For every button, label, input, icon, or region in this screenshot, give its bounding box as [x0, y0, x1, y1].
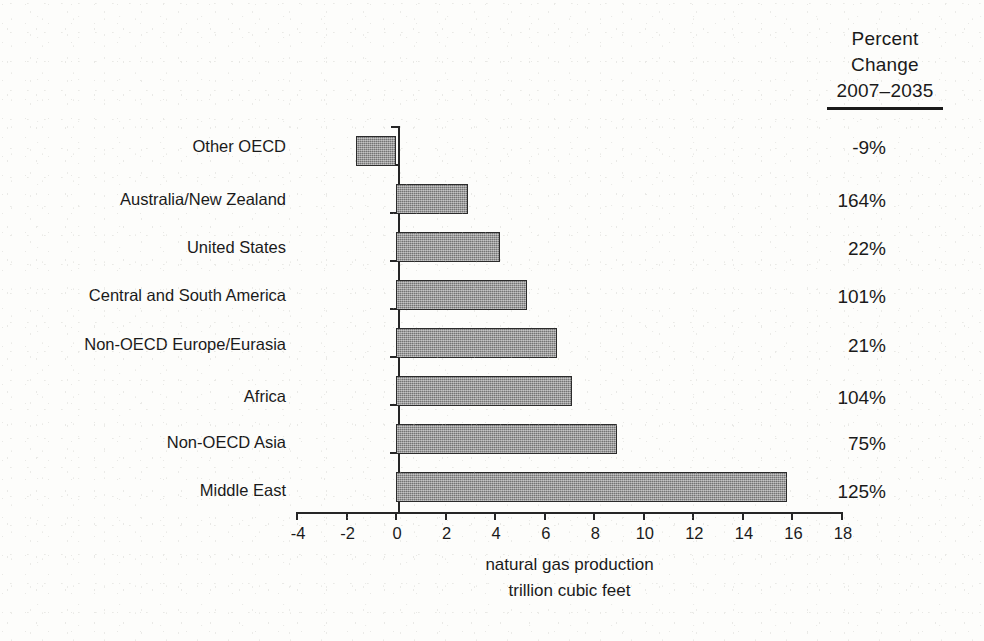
x-axis-caption: natural gas production trillion cubic fe…: [297, 552, 842, 604]
x-axis-tick-label: -2: [328, 524, 368, 542]
x-axis-tick-label: 2: [427, 524, 467, 542]
category-label-non-oecd-asia: Non-OECD Asia: [20, 434, 286, 451]
category-label-africa: Africa: [20, 388, 286, 405]
bar-central-and-south-america: [396, 280, 527, 310]
bar-non-oecd-asia: [396, 424, 616, 454]
category-label-australia-new-zealand: Australia/New Zealand: [20, 191, 286, 208]
bar-other-oecd: [356, 136, 396, 166]
x-axis-tick-label: -4: [278, 524, 318, 542]
category-label-other-oecd: Other OECD: [20, 138, 286, 155]
percent-change-header-line-3: 2007–2035: [820, 78, 950, 104]
x-axis-tick-label: 8: [575, 524, 615, 542]
bar-australia-new-zealand: [396, 184, 468, 214]
x-axis-tick: [841, 512, 843, 520]
x-axis-tick: [395, 512, 397, 520]
x-axis-tick: [346, 512, 348, 520]
x-axis-tick-label: 0: [377, 524, 417, 542]
bar-united-states: [396, 232, 500, 262]
x-axis-tick: [791, 512, 793, 520]
x-axis-tick: [445, 512, 447, 520]
x-axis-line: [297, 512, 842, 514]
category-label-middle-east: Middle East: [20, 482, 286, 499]
bar-middle-east: [396, 472, 787, 502]
x-axis-tick-label: 14: [724, 524, 764, 542]
x-axis-tick-label: 18: [823, 524, 863, 542]
percent-change-header-line-1: Percent: [820, 26, 950, 52]
percent-change-header-rule: [827, 107, 943, 110]
percent-change-header: Percent Change 2007–2035: [820, 26, 950, 110]
percent-change-header-line-2: Change: [820, 52, 950, 78]
x-axis-caption-line-2: trillion cubic feet: [297, 578, 842, 604]
x-axis-tick-label: 16: [773, 524, 813, 542]
category-label-central-and-south-america: Central and South America: [20, 287, 286, 304]
x-axis-tick: [643, 512, 645, 520]
x-axis-tick-label: 12: [674, 524, 714, 542]
x-axis-tick: [692, 512, 694, 520]
x-axis-tick: [593, 512, 595, 520]
x-axis-caption-line-1: natural gas production: [297, 552, 842, 578]
plot-area: -4-2024681012141618: [297, 126, 842, 514]
y-axis-top-cap: [391, 126, 400, 128]
x-axis-tick-label: 10: [625, 524, 665, 542]
x-axis-tick-label: 6: [526, 524, 566, 542]
category-label-united-states: United States: [20, 239, 286, 256]
bar-chart: Percent Change 2007–2035 Other OECD Aust…: [0, 0, 984, 641]
x-axis-tick: [544, 512, 546, 520]
category-label-non-oecd-europe-eurasia: Non-OECD Europe/Eurasia: [20, 336, 286, 353]
x-axis-tick: [494, 512, 496, 520]
x-axis-tick: [296, 512, 298, 520]
x-axis-tick: [742, 512, 744, 520]
x-axis-tick-label: 4: [476, 524, 516, 542]
bar-africa: [396, 376, 572, 406]
bar-non-oecd-europe-eurasia: [396, 328, 557, 358]
